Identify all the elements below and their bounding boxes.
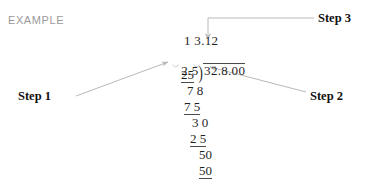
work-row-subtrahend-25b: 2 5 [190,132,206,147]
step-1-arrow [76,62,168,96]
dividend-value: 32.8.00 [203,63,245,77]
callout-step-2-label: Step 2 [310,89,343,104]
work-row-remainder-30: 3 0 [192,116,208,129]
callout-step-1-label: Step 1 [18,89,51,104]
example-heading: EXAMPLE [8,14,64,26]
work-row-subtrahend-75: 7 5 [184,100,200,115]
work-row-subtrahend-25: 25 [181,68,194,83]
quotient-value: 1 3.12 [184,34,218,47]
work-row-remainder-78: 7 8 [187,84,203,97]
work-row-remainder-50: 50 [199,148,212,161]
example-figure: EXAMPLE Step 1 Step 2 Step 3 [0,0,371,191]
work-row-subtrahend-50b: 50 [199,164,212,179]
callout-step-3-label: Step 3 [318,11,351,26]
step-3-arrow [205,18,314,40]
